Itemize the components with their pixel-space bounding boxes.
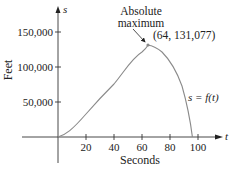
annotation-line2: maximum	[118, 17, 165, 29]
curve-s-f-t	[58, 45, 192, 137]
x-tick-label: 40	[109, 141, 121, 153]
max-point-marker	[146, 43, 149, 46]
x-axis-var: t	[225, 130, 229, 142]
y-tick-label: 150,000	[17, 26, 53, 38]
chart: s t 50,000 100,000 150,000 20 40 60 80 1…	[0, 0, 231, 169]
x-tick-label: 60	[137, 141, 149, 153]
y-axis-var: s	[63, 3, 67, 15]
x-tick-label: 80	[165, 141, 177, 153]
x-tick-label: 100	[190, 141, 207, 153]
curve-label: s = f(t)	[188, 91, 219, 104]
annotation-line1: Absolute	[120, 5, 162, 17]
annotation-arrow-icon	[133, 29, 145, 42]
y-axis-arrow-icon	[56, 6, 61, 13]
y-tick-label: 100,000	[17, 61, 53, 73]
y-axis-title: Feet	[1, 59, 15, 80]
x-axis-arrow-icon	[215, 135, 223, 140]
y-tick-label: 50,000	[23, 96, 54, 108]
max-point-label: (64, 131,077)	[153, 29, 215, 42]
x-tick-label: 20	[81, 141, 93, 153]
x-axis-title: Seconds	[120, 153, 160, 167]
